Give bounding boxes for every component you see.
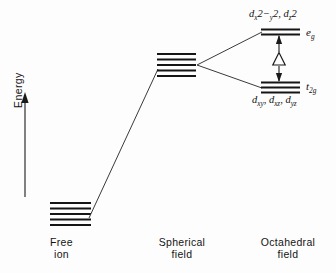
eg-orbital-d2-exp: 2	[292, 8, 297, 19]
column-caption-free-ion: Free ion	[50, 236, 110, 261]
t2g-orbital-label: dxy, dxz, dyz	[252, 94, 297, 109]
column-caption-octahedral-field-line2: field	[250, 248, 326, 260]
eg-term-sub: g	[311, 32, 315, 41]
eg-level-lines	[261, 30, 300, 35]
eg-orbital-minus: −	[263, 8, 270, 19]
t2g-level-lines	[261, 83, 300, 93]
t2g-orbital-comma1: ,	[264, 94, 267, 105]
free-ion-level-lines	[50, 203, 91, 225]
energy-axis-label: Energy	[12, 72, 24, 108]
column-caption-spherical-field: Spherical field	[147, 236, 217, 261]
column-caption-octahedral-field-line1: Octahedral	[250, 236, 326, 248]
eg-term-label: eg	[306, 26, 315, 42]
t2g-term-label: t2g	[306, 80, 316, 96]
column-caption-octahedral-field: Octahedral field	[250, 236, 326, 261]
t2g-orbital-comma2: ,	[280, 94, 283, 105]
eg-orbital-comma: ,	[278, 8, 281, 19]
column-caption-free-ion-line2: ion	[50, 248, 110, 260]
crystal-field-splitting-diagram: Energy dx2−y2, dz2 eg t2g dxy, dxz, dyz …	[0, 0, 336, 273]
delta-splitting-arrow	[273, 35, 285, 82]
delta-triangle-glyph	[273, 53, 285, 66]
t2g-term-sub: 2g	[309, 86, 316, 95]
connector-spherical-to-split	[197, 32, 262, 88]
connector-free-to-spherical	[89, 69, 158, 218]
column-caption-spherical-field-line1: Spherical	[147, 236, 217, 248]
t2g-orbital-d3-sub: yz	[291, 100, 297, 108]
eg-orbital-label: dx2−y2, dz2	[249, 8, 297, 23]
spherical-field-level-lines	[157, 54, 196, 76]
column-caption-free-ion-line1: Free	[50, 236, 110, 248]
column-caption-spherical-field-line2: field	[147, 248, 217, 260]
diagram-vector-layer	[0, 0, 336, 273]
